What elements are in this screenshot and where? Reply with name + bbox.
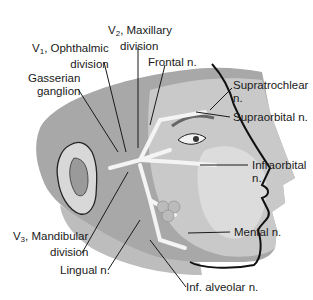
supratrochlear-line2: n.	[233, 92, 243, 104]
v1-line2: division	[70, 58, 108, 70]
label-v3-mandibular: V3, Mandibular division	[8, 230, 88, 259]
label-v2-maxillary: V2, Maxillary division	[108, 24, 172, 53]
label-lingual-n: Lingual n.	[60, 264, 110, 277]
v2-line1: , Maxillary	[120, 24, 172, 36]
infraorbital-line1: Infraorbital	[252, 159, 306, 171]
supratrochlear-line1: Supratrochlear	[233, 79, 308, 91]
label-infraorbital-n: Infraorbital n.	[252, 159, 306, 185]
v3-prefix: V	[13, 230, 21, 242]
label-supraorbital-n: Supraorbital n.	[233, 111, 308, 124]
infraorbital-line2: n.	[252, 172, 262, 184]
label-gasserian-ganglion: Gasserian ganglion	[28, 72, 80, 98]
v1-prefix: V	[32, 42, 40, 54]
label-mental-n: Mental n.	[234, 226, 281, 239]
trigeminal-diagram: V2, Maxillary division V1, Ophthalmic di…	[0, 0, 313, 300]
v1-line1: , Ophthalmic	[44, 42, 109, 54]
v2-prefix: V	[108, 24, 116, 36]
label-v1-ophthalmic: V1, Ophthalmic division	[32, 42, 109, 71]
label-frontal-n: Frontal n.	[148, 56, 197, 69]
gasserian-line1: Gasserian	[28, 72, 80, 84]
label-supratrochlear-n: Supratrochlear n.	[233, 79, 308, 105]
gasserian-line2: ganglion	[37, 85, 80, 97]
v2-line2: division	[108, 40, 158, 52]
label-inf-alveolar-n: Inf. alveolar n.	[186, 281, 258, 294]
v3-line2: division	[8, 246, 88, 259]
v3-line1: , Mandibular	[25, 230, 88, 242]
